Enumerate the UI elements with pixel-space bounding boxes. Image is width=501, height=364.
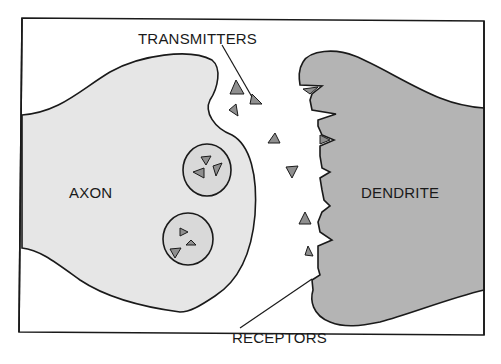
- receptors-label: RECEPTORS: [232, 330, 327, 345]
- transmitters-label: TRANSMITTERS: [138, 31, 257, 46]
- synapse-illustration: [0, 0, 501, 364]
- dendrite-label: DENDRITE: [361, 185, 439, 200]
- vesicle-2: [163, 213, 213, 265]
- vesicle-1: [183, 144, 231, 196]
- axon-label: AXON: [69, 185, 112, 200]
- synapse-diagram: TRANSMITTERS AXON DENDRITE RECEPTORS: [0, 0, 501, 364]
